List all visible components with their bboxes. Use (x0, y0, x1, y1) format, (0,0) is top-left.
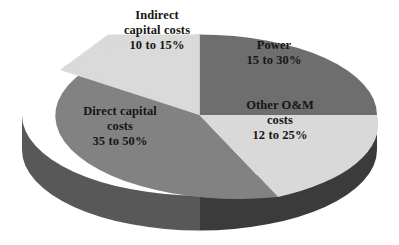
pie-chart-canvas (0, 0, 399, 245)
pie-top-face (55, 35, 378, 199)
slice-top-power (200, 35, 378, 116)
pie-chart-figure: Indirect capital costs 10 to 15% Power 1… (0, 0, 399, 245)
